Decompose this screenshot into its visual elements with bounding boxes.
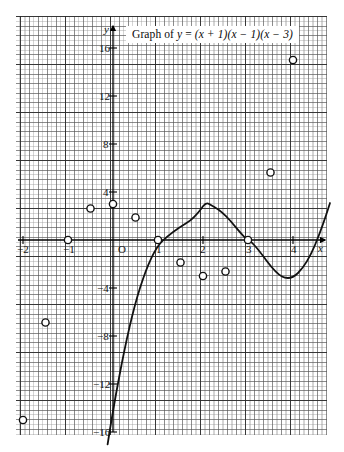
- data-point: [132, 214, 139, 221]
- plot-area: [0, 0, 344, 452]
- y-tick-label--8: −8: [97, 331, 109, 342]
- chart-title: Graph of y = (x + 1)(x − 1)(x − 3): [126, 26, 299, 43]
- cubic-curve: [108, 203, 330, 444]
- data-point: [222, 268, 229, 275]
- chart-title-y: y: [177, 28, 182, 40]
- data-point: [177, 259, 184, 266]
- y-tick-label-16: 16: [99, 43, 110, 54]
- x-axis-label: x: [318, 243, 323, 254]
- chart-title-prefix: Graph of: [132, 28, 174, 40]
- y-tick-label-4: 4: [103, 187, 109, 198]
- data-point: [267, 169, 274, 176]
- data-point: [42, 319, 49, 326]
- y-tick-label--12: −12: [93, 379, 110, 390]
- y-axis-label: y: [104, 24, 109, 35]
- chart-title-body: (x + 1)(x − 1)(x − 3): [195, 28, 293, 40]
- data-point: [87, 205, 94, 212]
- y-tick-label-8: 8: [103, 139, 109, 150]
- x-tick-label-4: 4: [291, 244, 297, 255]
- y-tick-label-12: 12: [99, 91, 110, 102]
- data-point: [109, 200, 116, 207]
- data-point: [289, 56, 296, 63]
- origin-label: O: [118, 244, 126, 255]
- graph-page: Graph of y = (x + 1)(x − 1)(x − 3) x y O…: [0, 0, 344, 452]
- x-tick-label-3: 3: [246, 244, 252, 255]
- x-tick-label--1: −1: [63, 244, 75, 255]
- x-tick-label-2: 2: [200, 244, 206, 255]
- y-tick-label--4: −4: [97, 283, 109, 294]
- chart-title-equals: =: [185, 28, 192, 40]
- x-tick-label-1: 1: [156, 244, 162, 255]
- y-tick-label--16: −16: [93, 427, 110, 438]
- x-tick-label--2: −2: [17, 244, 29, 255]
- data-point: [199, 272, 206, 279]
- data-point: [19, 416, 26, 423]
